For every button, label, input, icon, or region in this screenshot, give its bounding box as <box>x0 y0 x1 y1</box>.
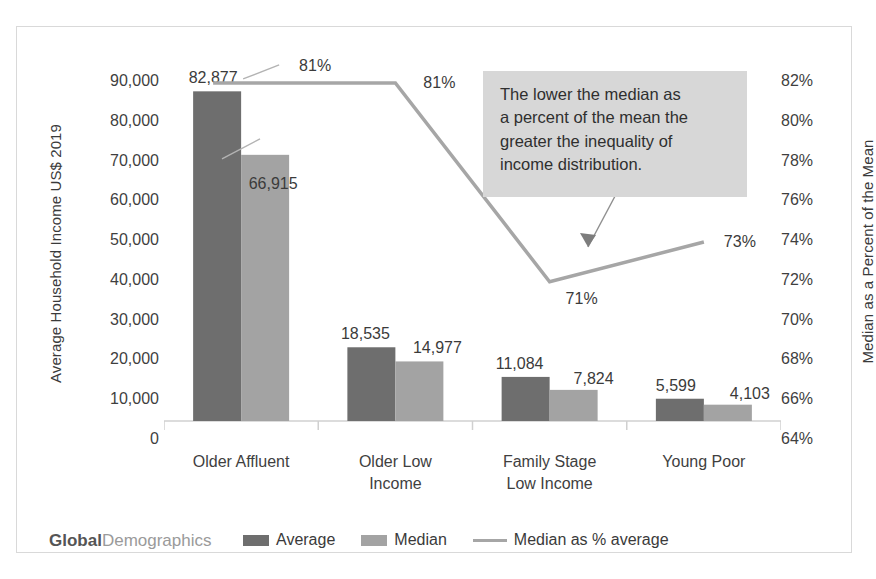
data-label-median-percent: 73% <box>724 233 756 250</box>
callout-line-1: The lower the median as <box>500 83 733 106</box>
legend-label: Median as % average <box>514 531 669 549</box>
y-tick-left: 90,000 <box>110 73 159 89</box>
y-axis-left-title: Average Household Income US$ 2019 <box>47 64 64 444</box>
y-tick-left: 60,000 <box>110 192 159 208</box>
x-category-label: Older Affluent <box>164 451 318 473</box>
y-tick-left: 40,000 <box>110 272 159 288</box>
bar-median <box>550 390 598 421</box>
y-tick-right: 76% <box>781 192 813 208</box>
y-tick-right: 64% <box>781 431 813 447</box>
y-tick-left: 10,000 <box>110 391 159 407</box>
x-category-label-line: Older Low <box>318 451 472 473</box>
data-label-median: 4,103 <box>730 385 770 402</box>
brand-part-demographics: Demographics <box>102 531 212 550</box>
chart-legend: AverageMedianMedian as % average <box>243 531 669 549</box>
legend-label: Average <box>276 531 335 549</box>
x-category-label-line: Low Income <box>473 473 627 495</box>
x-category-label-line: Family Stage <box>473 451 627 473</box>
y-axis-right-ticks: 64%66%68%70%72%74%76%78%80%82% <box>781 45 841 445</box>
data-label-average: 5,599 <box>656 377 696 394</box>
legend-label: Median <box>394 531 446 549</box>
data-label-average: 18,535 <box>341 325 390 342</box>
data-label-median-percent: 71% <box>566 290 598 307</box>
y-tick-right: 68% <box>781 351 813 367</box>
chart-frame: Average Household Income US$ 2019 Median… <box>16 26 852 553</box>
data-label-average: 11,084 <box>496 355 544 372</box>
y-tick-right: 78% <box>781 153 813 169</box>
x-category-label: Older LowIncome <box>318 451 472 494</box>
leader-line-81 <box>243 65 279 79</box>
bar-average <box>502 377 550 421</box>
y-tick-right: 72% <box>781 272 813 288</box>
x-category-label: Young Poor <box>627 451 781 473</box>
bar-average <box>347 347 395 421</box>
y-tick-left: 20,000 <box>110 351 159 367</box>
y-tick-left: 80,000 <box>110 113 159 129</box>
y-tick-right: 70% <box>781 312 813 328</box>
y-tick-right: 66% <box>781 391 813 407</box>
callout-line-2: a percent of the mean the <box>500 106 733 129</box>
data-label-median-percent: 81% <box>423 74 455 91</box>
bar-median <box>241 155 289 421</box>
y-tick-left: 0 <box>150 431 159 447</box>
y-tick-left: 30,000 <box>110 312 159 328</box>
x-axis-category-labels: Older AffluentOlder LowIncomeFamily Stag… <box>164 451 781 513</box>
bar-median <box>704 405 752 421</box>
callout-line-4: income distribution. <box>500 153 733 176</box>
x-category-label-line: Young Poor <box>627 451 781 473</box>
bar-median <box>395 361 443 421</box>
data-label-median: 66,915 <box>249 175 298 192</box>
x-category-label: Family StageLow Income <box>473 451 627 494</box>
x-category-label-line: Older Affluent <box>164 451 318 473</box>
y-tick-left: 70,000 <box>110 153 159 169</box>
chart-footer: GlobalDemographics AverageMedianMedian a… <box>33 523 869 569</box>
legend-item[interactable]: Median <box>361 531 446 549</box>
callout-line-3: greater the inequality of <box>500 130 733 153</box>
bar-average <box>193 91 241 421</box>
data-label-median-percent: 81% <box>299 57 331 74</box>
data-label-median: 14,977 <box>413 339 462 356</box>
legend-swatch-bar-icon <box>243 535 269 546</box>
y-tick-left: 50,000 <box>110 232 159 248</box>
legend-item[interactable]: Average <box>243 531 335 549</box>
legend-item[interactable]: Median as % average <box>473 531 669 549</box>
y-axis-left-ticks: 010,00020,00030,00040,00050,00060,00070,… <box>73 45 159 445</box>
brand-part-global: Global <box>49 531 102 550</box>
x-category-label-line: Income <box>318 473 472 495</box>
y-axis-right-title: Median as a Percent of the Mean <box>859 62 876 442</box>
inequality-annotation-box: The lower the median as a percent of the… <box>483 71 747 197</box>
bar-average <box>656 399 704 421</box>
y-tick-right: 80% <box>781 113 813 129</box>
legend-swatch-line-icon <box>473 539 507 542</box>
chart-container: Average Household Income US$ 2019 Median… <box>0 0 876 579</box>
brand-logo: GlobalDemographics <box>49 531 212 551</box>
data-label-median: 7,824 <box>574 370 614 387</box>
legend-swatch-bar-icon <box>361 535 387 546</box>
y-tick-right: 82% <box>781 73 813 89</box>
callout-arrow-head <box>580 233 596 247</box>
y-tick-right: 74% <box>781 232 813 248</box>
